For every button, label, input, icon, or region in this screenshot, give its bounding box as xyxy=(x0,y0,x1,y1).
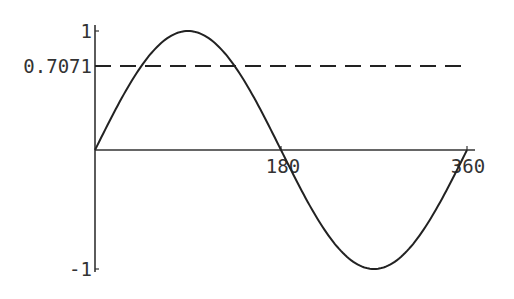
x-tick-label-180: 180 xyxy=(266,155,300,177)
y-tick-label-0.7071: 0.7071 xyxy=(23,55,92,77)
sine-chart: 1 0.7071 -1 180 360 xyxy=(0,0,514,299)
y-tick-label-neg1: -1 xyxy=(69,258,92,280)
y-tick-label-1: 1 xyxy=(81,20,92,42)
